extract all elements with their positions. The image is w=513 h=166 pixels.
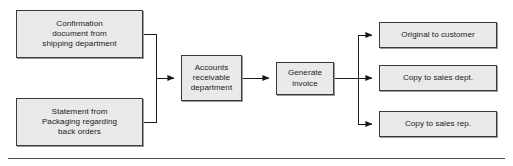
- node-original-to-customer[interactable]: Original to customer: [379, 22, 497, 48]
- node-copy-to-sales-dept[interactable]: Copy to sales dept.: [379, 65, 497, 91]
- node-confirmation-document[interactable]: Confirmation document from shipping depa…: [16, 10, 143, 58]
- connector-confirmation-to-bus: [144, 34, 156, 78]
- node-accounts-receivable-department[interactable]: Accounts receivable department: [181, 55, 242, 101]
- connector-statement-to-bus: [144, 78, 156, 122]
- node-packaging-statement[interactable]: Statement from Packaging regarding back …: [16, 98, 143, 146]
- footer-divider: [8, 158, 505, 159]
- node-generate-invoice[interactable]: Generate invoice: [276, 62, 334, 95]
- flowchart-diagram: Confirmation document from shipping depa…: [0, 0, 513, 166]
- node-copy-to-sales-rep[interactable]: Copy to sales rep.: [379, 111, 497, 137]
